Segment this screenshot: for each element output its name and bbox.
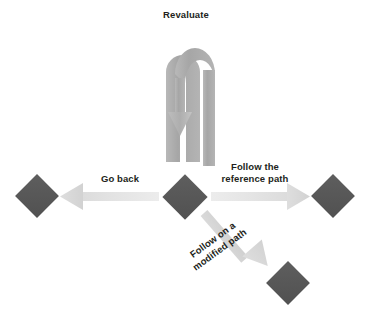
go-back-label: Go back <box>85 173 155 185</box>
bottom-right-node <box>266 261 310 305</box>
right-node <box>311 174 355 218</box>
revaluate-label: Revaluate <box>0 9 372 21</box>
left-node <box>15 174 59 218</box>
reference-path-arrow <box>211 183 310 210</box>
diagram-canvas: Revaluate Go back Follow the reference p… <box>0 0 372 316</box>
reference-path-label-line1: Follow the <box>231 161 279 172</box>
go-back-arrow <box>60 183 159 210</box>
reference-path-label: Follow the reference path <box>205 161 305 184</box>
reference-path-label-line2: reference path <box>222 173 289 184</box>
center-node <box>162 174 207 219</box>
revaluate-uturn-arrow-shape <box>168 48 249 166</box>
